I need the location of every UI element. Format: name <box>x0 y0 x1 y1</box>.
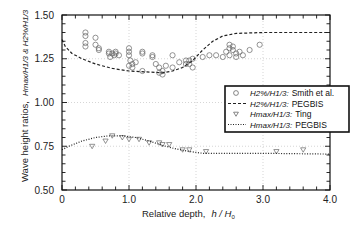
x-tick-label: 4.0 <box>323 194 337 205</box>
y-tick-label: 0.75 <box>35 141 55 152</box>
legend-label: H2%/H1/3:Smith et al. <box>250 88 334 98</box>
x-axis-title-sub: 0 <box>231 214 235 220</box>
legend-source: Smith et al. <box>292 88 335 98</box>
circle-marker <box>83 44 88 49</box>
y-tick-label: 0.50 <box>35 185 55 196</box>
x-tick-label: 0 <box>59 194 65 205</box>
circle-marker <box>200 54 205 59</box>
y-tick-label: 1.25 <box>35 53 55 64</box>
x-axis-title-var: h / H <box>211 208 231 219</box>
y-tick-label: 1.00 <box>35 97 55 108</box>
circle-marker <box>177 60 182 65</box>
triangle-marker <box>136 137 141 141</box>
x-axis-title-main: Relative depth, <box>142 208 205 219</box>
y-axis-title-main: Wave height ratios, <box>19 101 30 182</box>
circle-marker <box>214 53 219 58</box>
circle-marker <box>240 53 245 58</box>
series-hmax-h1-3-ting <box>90 134 306 154</box>
circle-marker <box>207 53 212 58</box>
legend-var: Hmax/H1/3: <box>250 110 292 119</box>
x-axis-title: Relative depth,h / H0 <box>142 208 235 220</box>
legend-label: Hmax/H1/3:Ting <box>250 109 312 119</box>
series-h2-h1-3-smith-et-al- <box>83 30 262 77</box>
legend-source: Ting <box>295 109 311 119</box>
circle-marker <box>190 65 195 70</box>
x-tick-label: 3.0 <box>256 194 270 205</box>
circle-marker <box>163 63 168 68</box>
x-tick-label: 1.0 <box>122 194 136 205</box>
circle-marker <box>170 65 175 70</box>
triangle-marker <box>301 148 306 152</box>
legend-source: PEGBIS <box>292 99 324 109</box>
wave-height-ratio-chart: 01.02.03.04.00.500.751.001.251.50 Wave h… <box>0 0 353 229</box>
legend-label: Hmax/H1/3:PEGBIS <box>250 120 327 130</box>
circle-marker <box>93 35 98 40</box>
circle-marker <box>220 54 225 59</box>
triangle-marker <box>126 137 131 141</box>
circle-marker <box>247 47 252 52</box>
legend-var: H2%/H1/3: <box>250 100 289 109</box>
triangle-marker <box>103 139 108 143</box>
circle-marker <box>83 33 88 38</box>
y-axis-title-var: Hmax/H1/3 & H2%/H1/3 <box>21 9 30 96</box>
circle-marker <box>227 53 232 58</box>
legend-var: Hmax/H1/3: <box>250 121 292 130</box>
legend-label: H2%/H1/3:PEGBIS <box>250 99 324 109</box>
circle-marker <box>170 53 175 58</box>
x-tick-label: 2.0 <box>189 194 203 205</box>
y-tick-label: 1.50 <box>35 10 55 21</box>
legend-var: H2%/H1/3: <box>250 89 289 98</box>
legend: H2%/H1/3:Smith et al.H2%/H1/3:PEGBISHmax… <box>225 86 349 132</box>
circle-marker <box>140 68 145 73</box>
circle-marker <box>257 42 262 47</box>
y-axis-title: Wave height ratios,Hmax/H1/3 & H2%/H1/3 <box>19 9 30 182</box>
legend-source: PEGBIS <box>295 120 327 130</box>
